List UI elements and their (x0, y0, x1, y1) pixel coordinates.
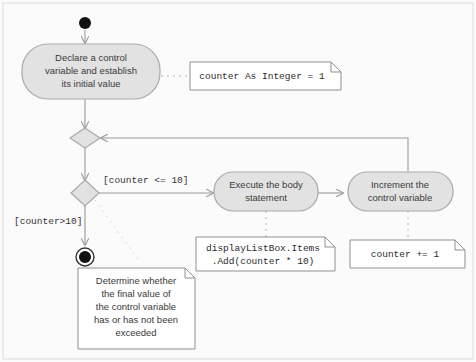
activity-node-declare[interactable]: Declare a control variable and establish… (22, 44, 160, 99)
note-execute-line-2: .Add(counter * 10) (212, 256, 315, 267)
note-final-line-2: the final value of (101, 288, 171, 299)
note-declare[interactable]: counter As Integer = 1 (190, 62, 341, 90)
activity-declare-line-3: its initial value (61, 78, 120, 89)
activity-execute-line-1: Execute the body (229, 179, 303, 190)
activity-diagram-canvas: Declare a control variable and establish… (0, 0, 476, 362)
note-execute-line-1: displayListBox.Items (206, 243, 320, 254)
note-final-line-4: has or has not been (94, 314, 178, 325)
activity-diagram-svg: Declare a control variable and establish… (0, 0, 476, 362)
guard-label-true: [counter <= 10] (103, 175, 189, 186)
activity-increment-line-1: Increment the (371, 179, 429, 190)
activity-increment-line-2: control variable (368, 192, 432, 203)
activity-node-execute[interactable]: Execute the body statement (214, 172, 318, 211)
activity-declare-line-2: variable and establish (45, 65, 137, 76)
guard-label-false: [counter>10] (14, 216, 82, 227)
note-final[interactable]: Determine whether the final value of the… (78, 268, 195, 349)
activity-node-increment[interactable]: Increment the control variable (348, 172, 453, 211)
note-execute[interactable]: displayListBox.Items .Add(counter * 10) (196, 237, 335, 271)
note-declare-line-1: counter As Integer = 1 (199, 71, 325, 82)
note-final-line-3: the control variable (96, 301, 176, 312)
initial-node (79, 17, 91, 29)
note-increment-line-1: counter += 1 (371, 249, 440, 260)
note-final-line-1: Determine whether (96, 275, 176, 286)
note-final-line-5: exceeded (115, 327, 156, 338)
activity-execute-line-2: statement (245, 192, 287, 203)
note-increment[interactable]: counter += 1 (350, 240, 465, 268)
activity-declare-line-1: Declare a control (55, 52, 127, 63)
activity-final-node (76, 248, 94, 266)
